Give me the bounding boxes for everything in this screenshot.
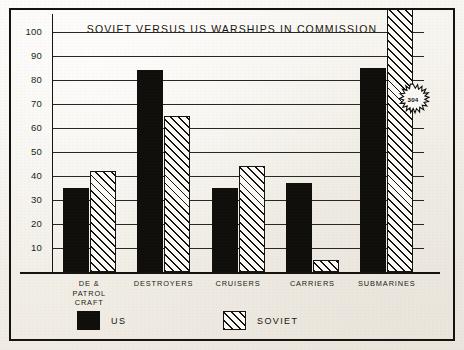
x-axis-label-0: DE &PATROLCRAFT bbox=[52, 279, 126, 308]
x-axis-label-line: PATROL bbox=[52, 289, 126, 299]
bar-us-1 bbox=[137, 70, 163, 272]
x-axis-label-line: DESTROYERS bbox=[126, 279, 200, 289]
x-axis-label-3: CARRIERS bbox=[275, 279, 349, 289]
y-axis-line bbox=[52, 14, 53, 272]
bar-soviet-4 bbox=[387, 10, 413, 272]
y-axis-tick-label: 80 bbox=[6, 74, 42, 85]
y-axis-tick-label: 40 bbox=[6, 170, 42, 181]
y-axis-tick-label: 100 bbox=[6, 26, 42, 37]
legend-swatch-us bbox=[77, 311, 100, 330]
x-axis-label-line: SUBMARINES bbox=[350, 279, 424, 289]
legend-label-us: US bbox=[111, 316, 126, 326]
legend-swatch-soviet bbox=[223, 311, 246, 330]
legend-label-soviet: SOVIET bbox=[257, 316, 298, 326]
legend: US SOVIET bbox=[0, 308, 464, 334]
x-axis-label-line: DE & bbox=[52, 279, 126, 289]
legend-item-us: US bbox=[77, 311, 126, 330]
x-axis-label-2: CRUISERS bbox=[201, 279, 275, 289]
y-axis-tick-label: 30 bbox=[6, 194, 42, 205]
bar-soviet-2 bbox=[239, 166, 265, 272]
x-axis-label-1: DESTROYERS bbox=[126, 279, 200, 289]
bar-soviet-0 bbox=[90, 171, 116, 272]
bar-us-0 bbox=[63, 188, 89, 272]
y-axis-tick-label: 50 bbox=[6, 146, 42, 157]
x-axis-label-line: CARRIERS bbox=[275, 279, 349, 289]
legend-item-soviet: SOVIET bbox=[223, 311, 298, 330]
bar-us-4 bbox=[360, 68, 386, 272]
chart-page: SOVIET VERSUS US WARSHIPS IN COMMISSION … bbox=[0, 0, 464, 350]
x-axis-label-line: CRUISERS bbox=[201, 279, 275, 289]
y-axis-tick-label: 60 bbox=[6, 122, 42, 133]
starburst-value: 304 bbox=[396, 83, 430, 115]
bar-soviet-3 bbox=[313, 260, 339, 272]
starburst-callout: 304 bbox=[396, 83, 430, 115]
gridline bbox=[52, 56, 424, 57]
y-axis-tick-label: 10 bbox=[6, 242, 42, 253]
gridline bbox=[52, 32, 424, 33]
x-axis-line bbox=[20, 272, 440, 274]
bar-us-2 bbox=[212, 188, 238, 272]
y-axis-tick-label: 90 bbox=[6, 50, 42, 61]
bar-us-3 bbox=[286, 183, 312, 272]
x-axis-label-line: CRAFT bbox=[52, 298, 126, 308]
y-axis-tick-label: 20 bbox=[6, 218, 42, 229]
x-axis-label-4: SUBMARINES bbox=[350, 279, 424, 289]
y-axis-tick-label: 70 bbox=[6, 98, 42, 109]
bar-soviet-1 bbox=[164, 116, 190, 272]
